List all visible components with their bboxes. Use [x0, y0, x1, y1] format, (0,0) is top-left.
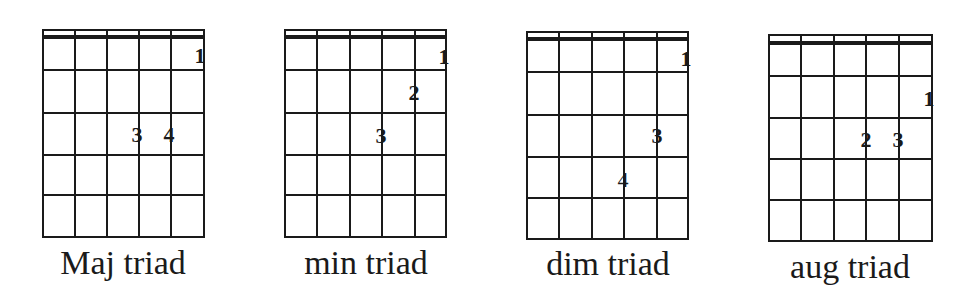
fret-1 [768, 75, 933, 77]
chord-label: Maj triad [60, 245, 186, 281]
string-2 [558, 31, 560, 240]
chord-label: min triad [304, 245, 428, 281]
finger-number: 1 [919, 88, 939, 110]
fret-2 [284, 112, 447, 114]
fret-4 [284, 194, 447, 196]
fret-1 [284, 69, 447, 71]
fret-1 [526, 71, 689, 73]
fret-2 [42, 112, 205, 114]
nut [42, 35, 205, 39]
chord-label: aug triad [790, 249, 910, 285]
string-3 [349, 29, 351, 238]
fret-3 [768, 158, 933, 160]
nut [526, 37, 689, 41]
nut [284, 35, 447, 39]
fret-1 [42, 69, 205, 71]
string-4 [623, 31, 625, 240]
fretboard-frame [284, 29, 447, 238]
finger-number: 2 [404, 82, 424, 104]
fret-2 [526, 114, 689, 116]
finger-number: 3 [647, 125, 667, 147]
fret-3 [284, 154, 447, 156]
fret-4 [42, 194, 205, 196]
string-2 [800, 34, 802, 242]
nut [768, 41, 933, 45]
string-3 [833, 34, 835, 242]
fretboard-frame [42, 29, 205, 238]
finger-number: 3 [127, 124, 147, 146]
string-5 [414, 29, 416, 238]
finger-number: 1 [434, 46, 454, 68]
chord-diagram-aug-triad: 1 2 3 [768, 34, 933, 242]
chord-diagram-dim-triad: 1 3 4 [526, 31, 689, 240]
finger-number: 3 [371, 125, 391, 147]
fret-3 [42, 154, 205, 156]
fret-4 [526, 197, 689, 199]
fret-4 [768, 199, 933, 201]
chord-diagram-maj-triad: 1 3 4 [42, 29, 205, 238]
finger-number: 3 [888, 129, 908, 151]
chord-label: dim triad [546, 246, 670, 282]
finger-number: 1 [676, 48, 696, 70]
string-2 [74, 29, 76, 238]
string-3 [591, 31, 593, 240]
fret-3 [526, 156, 689, 158]
finger-number: 1 [190, 45, 210, 67]
string-2 [316, 29, 318, 238]
chord-diagram-min-triad: 1 2 3 [284, 29, 447, 238]
fret-2 [768, 117, 933, 119]
fretboard-frame [768, 34, 933, 242]
finger-number: 4 [159, 124, 179, 146]
string-3 [106, 29, 108, 238]
finger-number: 2 [856, 129, 876, 151]
finger-number: 4 [613, 169, 633, 191]
